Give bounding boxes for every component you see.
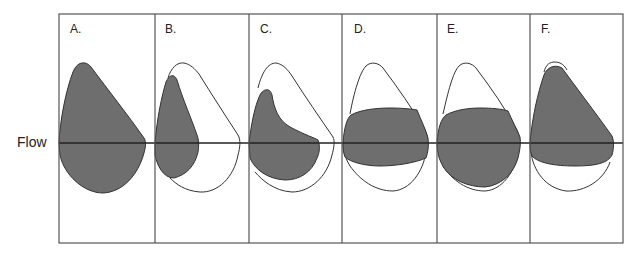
panel-d bbox=[343, 63, 428, 191]
filled-loop bbox=[59, 63, 146, 193]
filled-loop bbox=[343, 108, 428, 166]
panel-c bbox=[249, 63, 334, 192]
panel-b bbox=[155, 63, 240, 192]
panel-label-d: D. bbox=[354, 22, 366, 36]
filled-loop bbox=[530, 66, 614, 166]
flow-volume-diagram: A. B. C. D. E. F. bbox=[0, 0, 640, 266]
panel-e bbox=[437, 63, 520, 191]
filled-loop bbox=[249, 90, 319, 180]
panel-label-c: C. bbox=[260, 22, 272, 36]
filled-loop bbox=[155, 76, 199, 178]
panel-label-a: A. bbox=[70, 22, 81, 36]
panel-f bbox=[530, 62, 614, 191]
panel-label-b: B. bbox=[165, 22, 176, 36]
panel-label-f: F. bbox=[541, 22, 550, 36]
panel-label-e: E. bbox=[447, 22, 458, 36]
panel-a bbox=[59, 63, 146, 193]
